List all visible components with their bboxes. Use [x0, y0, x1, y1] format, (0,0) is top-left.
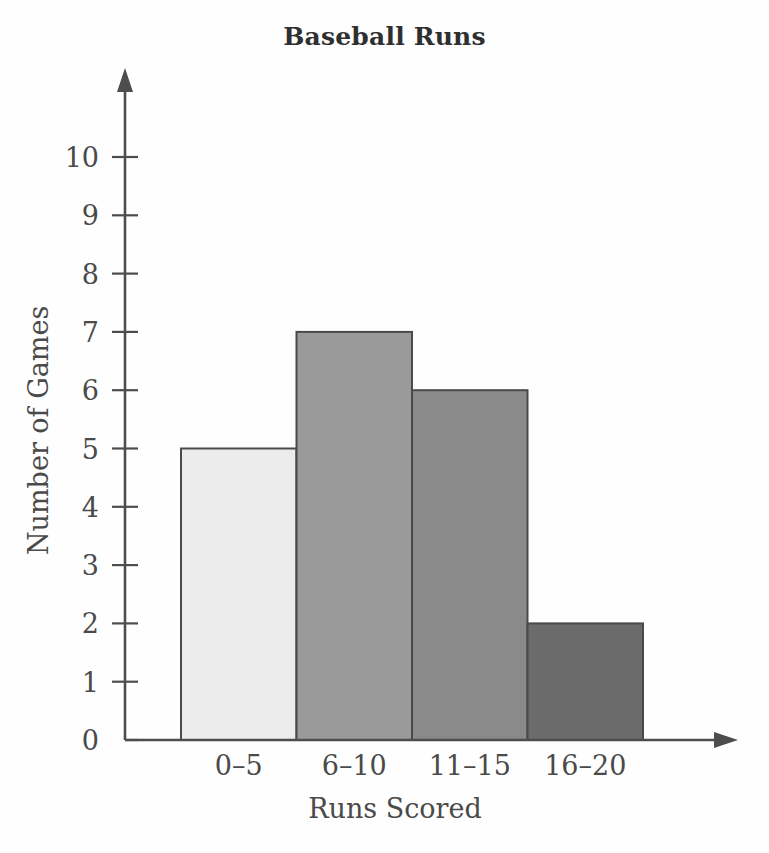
x-axis-title: Runs Scored	[308, 793, 482, 824]
y-tick-label: 5	[82, 434, 99, 465]
y-tick-label: 0	[82, 725, 99, 756]
bars-group	[181, 332, 643, 740]
x-category-label: 11–15	[429, 750, 511, 781]
y-tick-label: 8	[82, 259, 99, 290]
y-tick-label: 2	[82, 608, 99, 639]
x-category-label: 6–10	[322, 750, 387, 781]
bar	[297, 332, 413, 740]
y-tick-label: 6	[82, 375, 99, 406]
y-axis-ticks: 012345678910	[65, 142, 138, 756]
x-category-label: 0–5	[215, 750, 263, 781]
y-tick-label: 3	[82, 550, 99, 581]
x-axis-arrow-icon	[714, 732, 738, 748]
x-category-label: 16–20	[544, 750, 626, 781]
y-tick-label: 4	[82, 492, 99, 523]
bar	[412, 390, 528, 740]
y-tick-label: 9	[82, 200, 99, 231]
y-tick-label: 1	[82, 667, 99, 698]
y-axis-arrow-icon	[117, 68, 133, 92]
y-tick-label: 10	[65, 142, 99, 173]
chart-plot-area: 012345678910 0–56–1011–1516–20 Number of…	[0, 0, 769, 853]
bar	[181, 449, 297, 741]
y-tick-label: 7	[82, 317, 99, 348]
chart-container: Baseball Runs 012345678910 0–56–1011–151…	[0, 0, 769, 853]
bar	[528, 623, 644, 740]
y-axis-title: Number of Games	[23, 306, 54, 555]
x-axis-category-labels: 0–56–1011–1516–20	[215, 750, 627, 781]
